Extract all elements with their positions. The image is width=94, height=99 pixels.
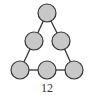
node-circle — [38, 61, 56, 79]
diagram-caption: 12 — [0, 81, 94, 96]
node-circle — [65, 61, 83, 79]
node-circle — [52, 32, 70, 50]
node-circle — [25, 32, 43, 50]
node-circle — [38, 4, 56, 22]
nodes — [11, 4, 83, 79]
node-circle — [11, 61, 29, 79]
